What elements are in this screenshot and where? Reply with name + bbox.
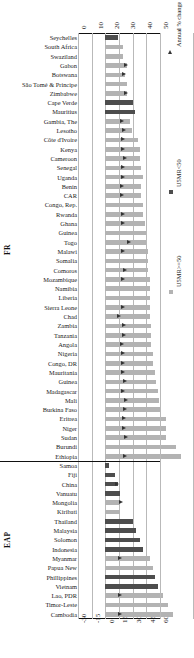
category-label: Angola [1, 341, 77, 348]
change-marker [123, 407, 127, 411]
change-marker [122, 426, 126, 430]
bar [105, 314, 149, 319]
category-label: China [1, 481, 77, 488]
bar [105, 398, 159, 403]
category-label: Vietnam [1, 583, 77, 590]
category-label: Solomon [1, 536, 77, 543]
bar [105, 249, 148, 254]
category-label: Somalia [1, 257, 77, 264]
change-marker [121, 361, 125, 365]
category-label: CAR [1, 192, 77, 199]
change-marker [123, 156, 127, 160]
category-label: Burundi [1, 443, 77, 450]
category-label: Tanzania [1, 332, 77, 339]
category-label: Namibia [1, 285, 77, 292]
category-label: Thailand [1, 518, 77, 525]
category-label: Burkina Faso [1, 406, 77, 413]
bar [105, 435, 166, 440]
change-marker [121, 277, 125, 281]
category-label: Ghana [1, 220, 77, 227]
bar [105, 342, 151, 347]
category-label: Lao, PDR [1, 592, 77, 599]
change-marker [121, 389, 125, 393]
category-label: Madagascar [1, 388, 77, 395]
change-marker [120, 184, 124, 188]
change-marker [121, 351, 125, 355]
category-label: Cambodia [1, 611, 77, 618]
category-label: Malawi [1, 248, 77, 255]
change-marker [122, 323, 126, 327]
legend-label-change: Annual % change (1990–2002) [175, 0, 182, 47]
top-tick-30: 30 [130, 22, 137, 29]
change-marker [123, 379, 127, 383]
bar [105, 45, 123, 50]
category-label: Mongolia [1, 499, 77, 506]
bar [105, 128, 131, 133]
category-label: Sudan [1, 434, 77, 441]
change-marker [119, 500, 123, 504]
bar [105, 100, 133, 105]
bar [105, 584, 157, 589]
plot-area [78, 33, 160, 619]
change-marker [127, 240, 131, 244]
category-label: Gambia, The [1, 118, 77, 125]
top-tick-50: 50 [163, 22, 170, 29]
bar [105, 519, 133, 524]
bottom-tick-60: 60 [163, 616, 170, 623]
top-tick-40: 40 [147, 22, 154, 29]
top-tick-10: 10 [98, 22, 105, 29]
change-marker [121, 147, 125, 151]
bar [105, 547, 143, 552]
bottom-tick-0: 0 [109, 620, 116, 624]
category-label: Timor-Leste [1, 601, 77, 608]
category-label: Congo, DR [1, 360, 77, 367]
category-label: Cameroon [1, 155, 77, 162]
change-marker [121, 212, 125, 216]
top-tick-20: 20 [114, 22, 121, 29]
change-marker [123, 454, 127, 458]
category-label: Botswana [1, 71, 77, 78]
bar [105, 389, 157, 394]
bar [105, 203, 143, 208]
bar [105, 603, 167, 608]
change-marker [115, 482, 119, 486]
change-marker [118, 593, 122, 597]
category-label: Lesotho [1, 127, 77, 134]
change-marker [120, 193, 124, 197]
change-marker [118, 612, 122, 616]
change-marker [122, 416, 126, 420]
bar [105, 361, 153, 366]
category-label: São Tomé & Principe [1, 81, 77, 88]
legend-swatch-u5mr_low [169, 190, 173, 194]
bar [105, 575, 154, 580]
category-label: Fiji [1, 471, 77, 478]
category-label: Phillippines [1, 574, 77, 581]
bar [105, 417, 166, 422]
category-label: Myanmar [1, 555, 77, 562]
category-label: Mauritius [1, 108, 77, 115]
bar [105, 305, 149, 310]
bar [105, 510, 120, 515]
bar [105, 35, 118, 40]
bar [105, 119, 130, 124]
category-label: Nigeria [1, 350, 77, 357]
category-label: Swaziland [1, 53, 77, 60]
bar [105, 426, 166, 431]
category-label: Benin [1, 183, 77, 190]
category-label: Togo [1, 239, 77, 246]
category-label: Niger [1, 425, 77, 432]
category-label: Guinea [1, 229, 77, 236]
change-marker [124, 91, 128, 95]
legend-box-right-border [193, 33, 194, 619]
bar [105, 407, 161, 412]
category-label: Mali [1, 397, 77, 404]
category-label: Gabon [1, 62, 77, 69]
section-label-eap: EAP [3, 531, 12, 548]
category-label: Sierra Leone [1, 304, 77, 311]
category-label: Seychelles [1, 34, 77, 41]
change-marker [123, 268, 127, 272]
change-marker [121, 165, 125, 169]
bar [105, 333, 151, 338]
category-label: Eritrea [1, 415, 77, 422]
category-label: Guinea [1, 378, 77, 385]
